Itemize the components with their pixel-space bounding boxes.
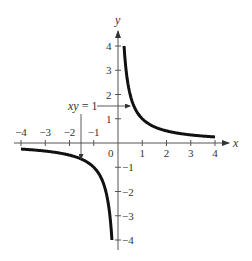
- x-tick-label: −2: [64, 126, 76, 138]
- hyperbola-branch-positive: [124, 46, 215, 137]
- x-tick-label: 4: [212, 147, 218, 159]
- y-tick-label: −2: [122, 186, 134, 198]
- y-tick-label: −4: [122, 234, 134, 246]
- hyperbola-chart: −4−3−2−112344321−1−2−3−4 x y 0 xy = 1: [0, 0, 252, 261]
- origin-label: 0: [108, 147, 114, 159]
- y-tick-label: 2: [106, 89, 112, 101]
- x-axis-label: x: [232, 136, 239, 150]
- x-tick-label: −1: [88, 126, 100, 138]
- y-tick-label: 1: [106, 113, 112, 125]
- y-axis-label: y: [114, 13, 121, 27]
- annotation-label: xy = 1: [67, 99, 97, 113]
- y-tick-label: 3: [106, 64, 112, 76]
- x-tick-label: −3: [39, 126, 51, 138]
- hyperbola-branch-negative: [21, 149, 112, 240]
- y-tick-label: −1: [122, 161, 134, 173]
- x-tick-label: −4: [15, 126, 27, 138]
- x-tick-label: 2: [164, 147, 170, 159]
- y-tick-label: −3: [122, 210, 134, 222]
- x-tick-label: 1: [140, 147, 146, 159]
- y-tick-label: 4: [106, 40, 112, 52]
- x-tick-label: 3: [188, 147, 194, 159]
